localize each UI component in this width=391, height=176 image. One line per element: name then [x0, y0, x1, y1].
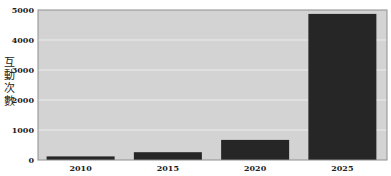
bar-2025 [308, 14, 376, 160]
y-axis-ticks: 010002000300040005000 [12, 5, 35, 165]
y-label-char: 動 [4, 68, 15, 82]
y-label-char: 數 [4, 95, 15, 108]
y-label-char: 次 [4, 81, 15, 95]
y-tick-label: 0 [28, 155, 34, 165]
y-tick-label: 4000 [12, 35, 35, 45]
x-tick-label: 2025 [331, 163, 353, 173]
x-tick-label: 2020 [244, 163, 267, 173]
y-tick-label: 1000 [12, 125, 35, 135]
bar-2015 [134, 152, 202, 160]
y-tick-label: 3000 [12, 65, 35, 75]
y-tick-label: 5000 [12, 5, 35, 15]
y-axis-label: 互動次數 [4, 56, 15, 108]
bar-2020 [221, 140, 289, 160]
y-tick-label: 2000 [12, 95, 35, 105]
y-label-char: 互 [4, 56, 15, 69]
x-tick-label: 2015 [157, 163, 179, 173]
bar-2010 [47, 156, 115, 160]
bar-chart: 010002000300040005000 2010201520202025 互… [0, 0, 391, 176]
x-axis-ticks: 2010201520202025 [69, 163, 353, 173]
x-tick-label: 2010 [69, 163, 92, 173]
